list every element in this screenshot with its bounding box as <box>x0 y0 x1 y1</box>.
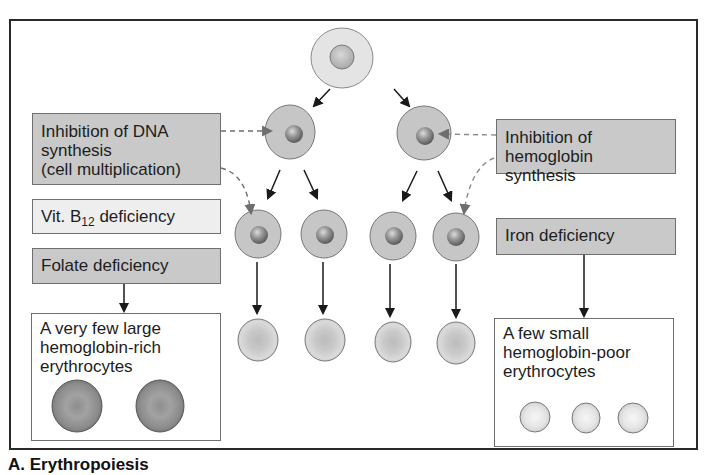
small-erythrocyte <box>520 402 550 432</box>
large-erythrocyte <box>52 380 102 432</box>
large-erythrocyte <box>136 380 184 432</box>
small-erythrocyte <box>572 403 600 433</box>
figure-caption: A. Erythropoiesis <box>8 455 149 475</box>
small-erythrocyte <box>618 403 648 433</box>
